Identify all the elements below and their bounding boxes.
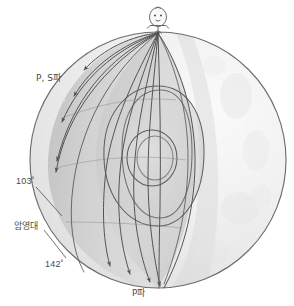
seismic-shadow-zone-figure: P, S파 103˚ 암영대 142˚ P파	[0, 0, 294, 306]
focus-point	[156, 31, 159, 34]
diagram-canvas: P, S파 103˚ 암영대 142˚ P파	[0, 0, 294, 306]
label-angle-142: 142˚	[45, 259, 64, 269]
label-angle-103: 103˚	[16, 176, 35, 186]
label-ps-waves: P, S파	[36, 73, 62, 83]
person-icon	[147, 7, 169, 33]
label-shadow-zone: 암영대	[14, 220, 38, 231]
label-p-waves: P파	[132, 288, 146, 298]
earth-globe	[22, 7, 294, 296]
